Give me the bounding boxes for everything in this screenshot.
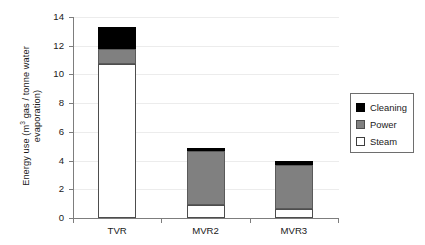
white-square-icon <box>356 137 365 146</box>
x-axis-category-label: MVR2 <box>171 225 241 236</box>
y-axis-tick-label: 14 <box>38 11 64 22</box>
legend-item-steam[interactable]: Steam <box>356 133 413 150</box>
segment-steam[interactable] <box>187 205 225 218</box>
superscript-three: 3 <box>19 121 26 125</box>
bar-tvr[interactable] <box>98 17 136 218</box>
bar-mvr3[interactable] <box>275 17 313 218</box>
x-axis-category-label: TVR <box>82 225 152 236</box>
segment-cleaning[interactable] <box>187 148 225 152</box>
segment-cleaning[interactable] <box>98 27 136 49</box>
segment-power[interactable] <box>98 49 136 64</box>
segment-steam[interactable] <box>275 209 313 218</box>
y-axis-tick-label: 6 <box>38 126 64 137</box>
y-axis-tick-label: 0 <box>38 212 64 223</box>
chart-legend: Cleaning Power Steam <box>350 93 414 153</box>
x-axis-line <box>73 218 339 219</box>
legend-item-power[interactable]: Power <box>356 116 413 133</box>
x-axis-tick <box>161 218 162 223</box>
x-axis-tick <box>250 218 251 223</box>
y-axis-tick <box>69 46 73 47</box>
y-axis-tick <box>69 103 73 104</box>
y-axis-tick <box>69 17 73 18</box>
y-axis-tick-label: 2 <box>38 183 64 194</box>
legend-label-cleaning: Cleaning <box>370 102 407 113</box>
x-axis-tick <box>338 218 339 223</box>
segment-power[interactable] <box>187 151 225 205</box>
legend-label-steam: Steam <box>370 136 397 147</box>
y-axis-title-line1: Energy use (m3 gas / tonne water <box>21 46 31 186</box>
segment-steam[interactable] <box>98 64 136 218</box>
stacked-bar-chart: Energy use (m3 gas / tonne water evapora… <box>0 0 425 245</box>
y-axis-tick-label: 8 <box>38 97 64 108</box>
y-axis-tick-label: 10 <box>38 68 64 79</box>
y-axis-tick-label: 12 <box>38 40 64 51</box>
segment-cleaning[interactable] <box>275 161 313 165</box>
x-axis-tick <box>73 218 74 223</box>
legend-item-cleaning[interactable]: Cleaning <box>356 99 413 116</box>
y-axis-tick-label: 4 <box>38 155 64 166</box>
black-square-icon <box>356 103 365 112</box>
y-axis-tick <box>69 161 73 162</box>
segment-power[interactable] <box>275 165 313 209</box>
y-axis-tick <box>69 132 73 133</box>
y-axis-tick <box>69 74 73 75</box>
bar-mvr2[interactable] <box>187 17 225 218</box>
x-axis-category-label: MVR3 <box>259 225 329 236</box>
legend-label-power: Power <box>370 119 397 130</box>
y-axis-tick <box>69 189 73 190</box>
gray-square-icon <box>356 120 365 129</box>
